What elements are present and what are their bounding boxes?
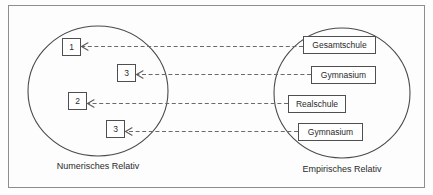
node-realschule-label: Realschule	[296, 99, 338, 109]
node-gymnasium-lower-label: Gymnasium	[308, 127, 353, 137]
empirisches-relativ-nodes: Gesamtschule Gymnasium Realschule Gymnas…	[289, 37, 376, 141]
node-number-3-upper[interactable]: 3	[118, 65, 136, 82]
numerisches-relativ-circle	[28, 26, 168, 156]
node-number-3-lower-label: 3	[113, 124, 118, 134]
relational-mapping-diagram: 1 3 2 3 Gesamtschule Gymnasium	[0, 0, 433, 195]
node-number-1[interactable]: 1	[63, 39, 81, 56]
node-number-2-label: 2	[75, 96, 80, 106]
node-number-3-lower[interactable]: 3	[107, 121, 125, 138]
numerisches-relativ-caption: Numerisches Relativ	[57, 161, 140, 171]
node-number-1-label: 1	[69, 42, 74, 52]
empirisches-relativ-caption: Empirisches Relativ	[302, 164, 382, 174]
diagram-screenshot: 1 3 2 3 Gesamtschule Gymnasium	[0, 0, 433, 195]
node-gymnasium-upper-label: Gymnasium	[321, 70, 366, 80]
node-realschule[interactable]: Realschule	[289, 96, 346, 113]
node-number-3-upper-label: 3	[124, 68, 129, 78]
node-gymnasium-lower[interactable]: Gymnasium	[299, 124, 363, 141]
numerisches-relativ-nodes: 1 3 2 3	[63, 39, 136, 138]
node-gesamtschule-label: Gesamtschule	[312, 40, 367, 50]
node-gymnasium-upper[interactable]: Gymnasium	[312, 67, 376, 84]
node-number-2[interactable]: 2	[69, 93, 87, 110]
node-gesamtschule[interactable]: Gesamtschule	[304, 37, 376, 54]
